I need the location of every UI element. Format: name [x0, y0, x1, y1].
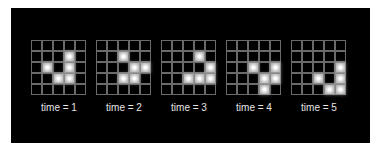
empty-cell — [172, 84, 183, 95]
empty-cell — [248, 73, 259, 84]
live-cell — [205, 73, 216, 84]
empty-cell — [129, 84, 140, 95]
frame-2: time = 2 — [96, 40, 152, 96]
empty-cell — [237, 73, 248, 84]
empty-cell — [291, 73, 302, 84]
live-cell — [194, 73, 205, 84]
empty-cell — [205, 40, 216, 51]
empty-cell — [194, 84, 205, 95]
empty-cell — [172, 40, 183, 51]
empty-cell — [140, 73, 151, 84]
live-cell — [183, 73, 194, 84]
live-cell — [313, 73, 324, 84]
empty-cell — [313, 62, 324, 73]
empty-cell — [313, 40, 324, 51]
empty-cell — [161, 84, 172, 95]
frame-1: time = 1 — [31, 40, 87, 96]
live-cell — [140, 62, 151, 73]
empty-cell — [129, 40, 140, 51]
empty-cell — [291, 51, 302, 62]
grid — [161, 40, 217, 96]
empty-cell — [161, 51, 172, 62]
empty-cell — [96, 51, 107, 62]
empty-cell — [75, 51, 86, 62]
empty-cell — [53, 40, 64, 51]
empty-cell — [42, 84, 53, 95]
empty-cell — [259, 51, 270, 62]
empty-cell — [270, 40, 281, 51]
grid — [96, 40, 152, 96]
live-cell — [270, 62, 281, 73]
empty-cell — [324, 62, 335, 73]
empty-cell — [194, 62, 205, 73]
empty-cell — [64, 40, 75, 51]
empty-cell — [259, 40, 270, 51]
empty-cell — [302, 51, 313, 62]
empty-cell — [226, 73, 237, 84]
live-cell — [129, 73, 140, 84]
diagram-panel: time = 1 time = 2 time = 3 time = 4 time… — [11, 8, 370, 143]
live-cell — [205, 62, 216, 73]
grid — [226, 40, 282, 96]
empty-cell — [31, 40, 42, 51]
empty-cell — [75, 73, 86, 84]
empty-cell — [42, 51, 53, 62]
empty-cell — [237, 40, 248, 51]
empty-cell — [194, 40, 205, 51]
empty-cell — [248, 40, 259, 51]
empty-cell — [107, 62, 118, 73]
frame-3: time = 3 — [161, 40, 217, 96]
empty-cell — [172, 73, 183, 84]
empty-cell — [118, 40, 129, 51]
empty-cell — [96, 62, 107, 73]
empty-cell — [237, 62, 248, 73]
live-cell — [335, 84, 346, 95]
live-cell — [129, 62, 140, 73]
empty-cell — [107, 51, 118, 62]
empty-cell — [259, 62, 270, 73]
empty-cell — [96, 73, 107, 84]
empty-cell — [96, 84, 107, 95]
empty-cell — [64, 84, 75, 95]
frame-5: time = 5 — [291, 40, 347, 96]
empty-cell — [302, 40, 313, 51]
empty-cell — [75, 62, 86, 73]
live-cell — [53, 73, 64, 84]
frame-label: time = 5 — [281, 102, 357, 113]
empty-cell — [183, 84, 194, 95]
empty-cell — [226, 51, 237, 62]
empty-cell — [302, 84, 313, 95]
live-cell — [259, 73, 270, 84]
empty-cell — [107, 84, 118, 95]
empty-cell — [324, 40, 335, 51]
live-cell — [335, 62, 346, 73]
grid — [31, 40, 87, 96]
empty-cell — [42, 73, 53, 84]
empty-cell — [53, 84, 64, 95]
empty-cell — [31, 62, 42, 73]
live-cell — [64, 62, 75, 73]
empty-cell — [31, 51, 42, 62]
empty-cell — [140, 51, 151, 62]
empty-cell — [270, 51, 281, 62]
empty-cell — [75, 40, 86, 51]
empty-cell — [205, 84, 216, 95]
empty-cell — [291, 84, 302, 95]
live-cell — [259, 84, 270, 95]
empty-cell — [107, 73, 118, 84]
empty-cell — [302, 73, 313, 84]
empty-cell — [226, 62, 237, 73]
empty-cell — [140, 40, 151, 51]
empty-cell — [313, 51, 324, 62]
empty-cell — [53, 62, 64, 73]
empty-cell — [248, 51, 259, 62]
live-cell — [42, 62, 53, 73]
live-cell — [64, 51, 75, 62]
empty-cell — [31, 73, 42, 84]
empty-cell — [205, 51, 216, 62]
live-cell — [335, 73, 346, 84]
empty-cell — [335, 51, 346, 62]
live-cell — [118, 51, 129, 62]
empty-cell — [291, 40, 302, 51]
empty-cell — [270, 84, 281, 95]
